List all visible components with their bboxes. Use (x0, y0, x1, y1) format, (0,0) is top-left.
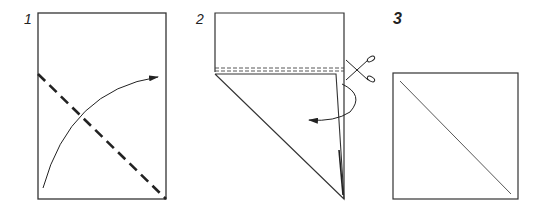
fold-arrow-icon (43, 77, 158, 188)
step-3-number: 3 (393, 10, 402, 27)
step-3: 3 (393, 10, 518, 199)
valley-fold-line (38, 74, 166, 199)
step-1: 1 (24, 11, 166, 199)
step-2-number: 2 (195, 11, 204, 27)
scissors-icon (346, 55, 376, 83)
step-2: 2 (195, 11, 376, 199)
diagonal-crease (400, 81, 511, 194)
origami-diagram: 1 2 3 (0, 0, 543, 216)
paper-square (393, 73, 518, 199)
paper-top-rectangle (215, 13, 344, 199)
paper-rectangle (38, 13, 166, 199)
step-1-number: 1 (24, 11, 32, 27)
folded-triangle (215, 74, 344, 199)
fold-behind-arrow-icon (309, 84, 356, 120)
